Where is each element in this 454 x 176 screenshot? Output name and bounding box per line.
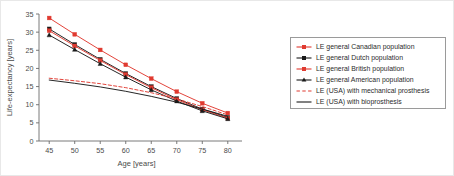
legend-key-canadian — [296, 42, 312, 52]
y-tick-label: 15 — [26, 82, 34, 91]
legend-key-american — [296, 75, 312, 85]
chart-legend: LE general Canadian population LE genera… — [290, 37, 446, 109]
y-tick-label: 20 — [26, 64, 34, 73]
y-tick-label: 30 — [26, 28, 34, 37]
legend-item: LE general American population — [296, 74, 441, 85]
legend-label: LE general Canadian population — [316, 42, 414, 52]
data-point-marker — [149, 77, 153, 81]
legend-label: LE general British population — [316, 64, 404, 74]
y-axis-title: Life-expectancy [years] — [5, 39, 14, 116]
x-tick-label: 50 — [71, 146, 79, 155]
legend-item: LE general Canadian population — [296, 41, 441, 52]
data-point-marker — [98, 48, 102, 52]
y-tick-label: 0 — [30, 137, 34, 146]
legend-key-bioprosthesis — [296, 97, 312, 107]
legend-key-dutch — [296, 53, 312, 63]
data-point-marker — [175, 90, 179, 94]
data-point-marker — [47, 29, 51, 33]
legend-label: LE (USA) with mechanical prosthesis — [316, 86, 429, 96]
x-tick-label: 75 — [198, 146, 206, 155]
data-point-marker — [47, 16, 51, 20]
y-tick-label: 25 — [26, 46, 34, 55]
legend-label: LE (USA) with bioprosthesis — [316, 97, 402, 107]
legend-item: LE (USA) with bioprosthesis — [296, 96, 441, 107]
x-tick-label: 65 — [147, 146, 155, 155]
legend-item: LE general British population — [296, 63, 441, 74]
x-tick-label: 55 — [96, 146, 104, 155]
y-tick-label: 5 — [30, 118, 34, 127]
legend-item: LE general Dutch population — [296, 52, 441, 63]
data-point-marker — [73, 32, 77, 36]
legend-label: LE general Dutch population — [316, 53, 403, 63]
data-point-marker — [200, 101, 204, 105]
figure-panel: 051015202530354550556065707580Age [years… — [0, 0, 454, 176]
data-point-marker — [124, 63, 128, 67]
y-tick-label: 35 — [26, 10, 34, 19]
legend-key-mechanical-prosthesis — [296, 86, 312, 96]
y-tick-label: 10 — [26, 100, 34, 109]
legend-label: LE general American population — [316, 75, 414, 85]
x-tick-label: 60 — [122, 146, 130, 155]
data-point-marker — [47, 33, 51, 37]
legend-item: LE (USA) with mechanical prosthesis — [296, 85, 441, 96]
legend-key-british — [296, 64, 312, 74]
x-tick-label: 70 — [173, 146, 181, 155]
x-tick-label: 45 — [45, 146, 53, 155]
x-axis-title: Age [years] — [118, 159, 156, 168]
x-tick-label: 80 — [224, 146, 232, 155]
